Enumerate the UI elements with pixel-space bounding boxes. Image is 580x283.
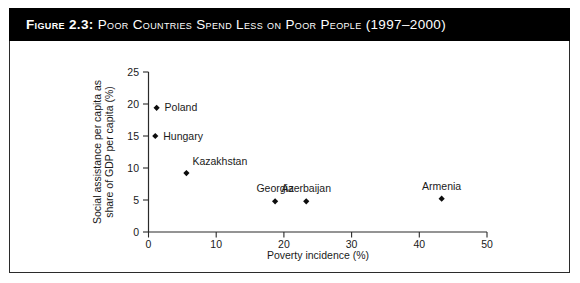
figure-body-frame: [9, 41, 570, 273]
page-title: Figure 2.3: Poor Countries Spend Less on…: [26, 17, 446, 32]
figure-caption-text: Poor Countries Spend Less on Poor People…: [98, 17, 446, 32]
figure-number: Figure 2.3:: [26, 17, 94, 32]
figure-title-bar: Figure 2.3: Poor Countries Spend Less on…: [9, 8, 570, 41]
figure-container: Figure 2.3: Poor Countries Spend Less on…: [0, 0, 580, 283]
